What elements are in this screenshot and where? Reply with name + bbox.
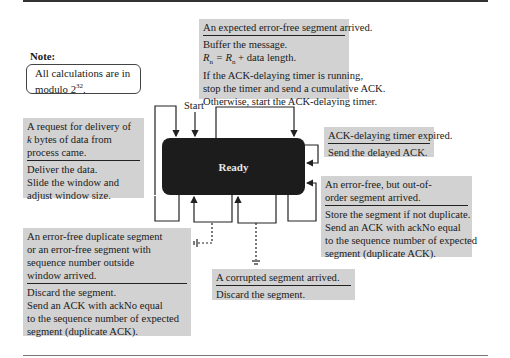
action-line: Deliver the data.	[27, 163, 140, 176]
action-line: segment (duplicate ACK).	[325, 247, 468, 260]
action-line: Send an ACK with ackNo equal	[325, 221, 468, 234]
note-box: All calculations are in modulo 232.	[26, 64, 141, 94]
action-line: to the sequence number of expected	[325, 234, 468, 247]
action-line: Otherwise, start the ACK-delaying timer.	[203, 95, 345, 108]
action-line: stop the timer and send a cumulative ACK…	[203, 82, 345, 95]
action-line: Slide the window and	[27, 176, 140, 189]
rn-formula: Rn = Rn + data length.	[203, 51, 345, 69]
event-label: ACK-delaying timer expired.	[328, 129, 430, 144]
note-title: Note:	[30, 50, 55, 62]
note-text-line2: modulo 2	[35, 83, 76, 95]
event-line: order segment arrived.	[325, 191, 468, 206]
action-line: segment (duplicate ACK).	[27, 325, 187, 338]
event-line: An error-free duplicate segment	[27, 230, 187, 243]
event-line-rest: bytes of data from	[32, 134, 112, 145]
event-line: or an error-free segment with	[27, 243, 187, 256]
bottom-rule	[23, 355, 488, 356]
state-ready: Ready	[162, 138, 305, 195]
rn-tail: + data length.	[235, 52, 296, 63]
action-line: Discard the segment.	[27, 286, 187, 299]
event-line: k bytes of data from	[27, 133, 140, 146]
action-line: Send the delayed ACK.	[328, 146, 430, 159]
transition-duplicate-segment: An error-free duplicate segment or an er…	[23, 228, 191, 336]
action-line: adjust window size.	[27, 189, 140, 202]
transition-ack-timer-expired: ACK-delaying timer expired. Send the del…	[324, 127, 434, 157]
transition-expected-segment: An expected error-free segment arrived. …	[199, 19, 349, 99]
transition-out-of-order-segment: An error-free, but out-of- order segment…	[321, 176, 472, 257]
transition-delivery-request: A request for delivery of k bytes of dat…	[23, 118, 144, 198]
action-line: to the sequence number of expected	[27, 312, 187, 325]
event-line: A request for delivery of	[27, 120, 140, 133]
action-line: If the ACK-delaying timer is running,	[203, 69, 345, 82]
transition-corrupted-segment: A corrupted segment arrived. Discard the…	[212, 269, 355, 300]
event-line: window arrived.	[27, 269, 187, 284]
event-line: An error-free, but out-of-	[325, 178, 468, 191]
action-line: Buffer the message.	[203, 38, 345, 51]
note-text-line1: All calculations are in	[35, 67, 130, 79]
event-label: An expected error-free segment arrived.	[203, 21, 345, 36]
rn-var2: = R	[213, 52, 232, 63]
action-line: Discard the segment.	[216, 288, 351, 301]
start-label: Start	[184, 100, 204, 111]
action-line: Store the segment if not duplicate.	[325, 208, 468, 221]
event-line: process came.	[27, 146, 140, 161]
note-suffix: .	[83, 83, 86, 95]
event-label: A corrupted segment arrived.	[216, 271, 351, 286]
event-line: sequence number outside	[27, 256, 187, 269]
action-line: Send an ACK with ackNo equal	[27, 299, 187, 312]
